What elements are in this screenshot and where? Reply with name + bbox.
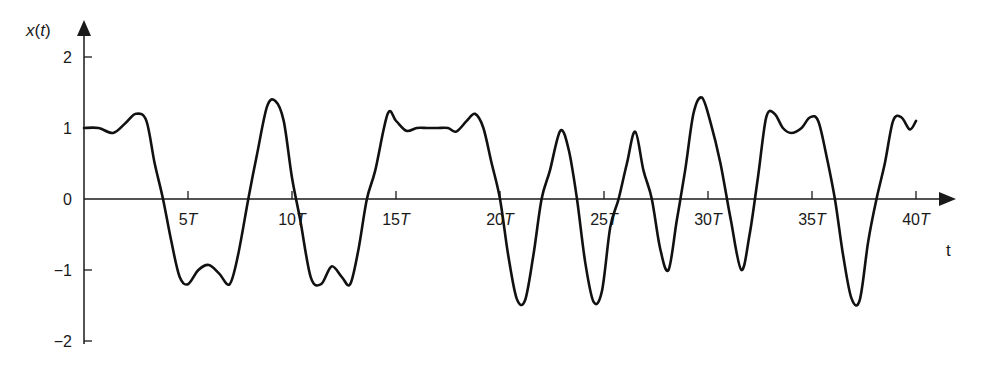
x-tick-label: 15T <box>382 211 411 228</box>
y-axis <box>77 20 91 344</box>
x-tick-label: 20T <box>486 211 515 228</box>
y-tick-label: 0 <box>63 191 72 208</box>
y-tick-label: −2 <box>54 333 72 350</box>
x-tick-label: 10T <box>278 211 307 228</box>
x-tick-label: 5T <box>179 211 199 228</box>
y-axis-arrowhead-icon <box>77 20 91 36</box>
x-tick-label: 40T <box>902 211 931 228</box>
y-tick-label: 2 <box>63 49 72 66</box>
waveform-chart: 210−1−2 5T10T15T20T25T30T35T40T x(t) t <box>0 0 985 369</box>
x-axis-label: t <box>946 241 951 260</box>
y-axis-label: x(t) <box>25 21 51 40</box>
x-ticks: 5T10T15T20T25T30T35T40T <box>179 191 931 228</box>
y-tick-label: −1 <box>54 262 72 279</box>
y-tick-label: 1 <box>63 120 72 137</box>
x-tick-label: 30T <box>694 211 723 228</box>
y-axis-label-close: ) <box>45 21 51 40</box>
x-axis <box>84 192 956 206</box>
x-tick-label: 35T <box>798 211 827 228</box>
x-axis-arrowhead-icon <box>939 192 956 206</box>
signal-curve <box>84 97 916 305</box>
